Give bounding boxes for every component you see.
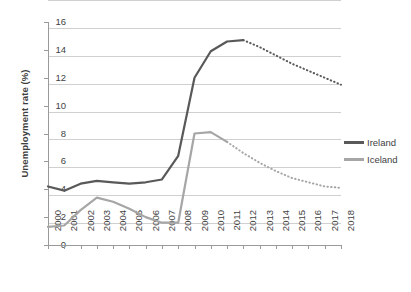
series-line-iceland	[48, 132, 227, 227]
unemployment-rate-chart: Unemployment rate (%) 1614121086420 2000…	[0, 0, 411, 292]
legend-label: Iceland	[367, 154, 398, 165]
series-line-iceland-projection	[227, 142, 341, 188]
chart-legend: IrelandIceland	[344, 134, 398, 168]
series-line-ireland-projection	[243, 40, 341, 85]
series-line-ireland	[48, 40, 243, 191]
legend-item-iceland[interactable]: Iceland	[344, 151, 398, 168]
legend-swatch-icon	[344, 158, 364, 161]
legend-item-ireland[interactable]: Ireland	[344, 134, 398, 151]
legend-swatch-icon	[344, 141, 364, 144]
legend-label: Ireland	[367, 137, 396, 148]
